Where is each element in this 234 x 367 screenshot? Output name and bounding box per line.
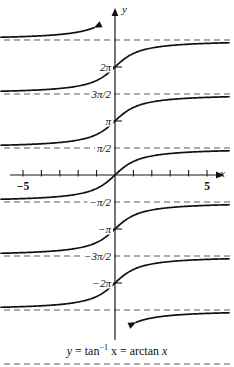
y-tick-label: 2π — [98, 61, 113, 72]
plot-canvas — [0, 0, 234, 367]
figure-caption: y = tan−1 x = arctan x — [0, 343, 234, 359]
arctan-branch — [136, 313, 229, 323]
caption-exponent: −1 — [99, 343, 108, 352]
arctan-branch — [1, 28, 94, 38]
y-tick-label: 3π/2 — [89, 88, 113, 99]
arctan-graph-figure: y x 2π3π/2ππ/2−π/2−π−3π/2−2π −55 y = tan… — [0, 0, 234, 367]
y-tick-label: −2π — [91, 278, 113, 289]
y-tick-label: −π/2 — [88, 197, 114, 208]
y-tick-label: −3π/2 — [82, 251, 113, 262]
y-axis-arrowhead — [112, 8, 119, 16]
branch-arrowhead — [128, 322, 137, 328]
x-tick-label: 5 — [204, 181, 210, 193]
y-axis-label: y — [122, 4, 127, 15]
branch-arrowhead — [94, 21, 103, 27]
y-tick-label: π/2 — [95, 142, 113, 153]
x-tick-label: −5 — [17, 181, 29, 193]
y-tick-label: −π — [96, 224, 113, 235]
caption-middle: x = arctan — [108, 344, 162, 358]
caption-eq-tan: = tan — [72, 344, 99, 358]
caption-x: x — [162, 344, 167, 358]
y-tick-label: π — [103, 115, 113, 126]
x-axis-label: x — [220, 168, 225, 179]
asymptote-lines — [4, 40, 230, 364]
